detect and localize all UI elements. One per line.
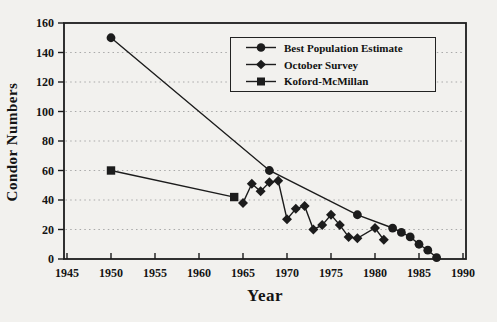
diamond-marker-icon [245,59,277,70]
legend-label: October Survey [284,59,358,71]
y-tick-label: 80 [42,134,54,148]
y-tick-label: 20 [42,223,54,237]
series-line-square [111,171,234,198]
legend-label: Koford-McMillan [284,75,368,87]
y-tick-label: 100 [36,105,54,119]
data-point-circle [107,33,116,42]
data-point-square [230,193,238,201]
x-tick-label: 1975 [319,266,343,280]
legend-item-best-population-estimate: Best Population Estimate [245,41,435,55]
y-tick-label: 120 [36,75,54,89]
data-point-circle [423,246,432,255]
data-point-diamond [308,225,318,235]
y-tick-label: 40 [42,193,54,207]
legend-label: Best Population Estimate [284,42,403,54]
x-tick-label: 1955 [143,266,167,280]
data-point-circle [432,253,441,262]
data-point-circle [397,228,406,237]
y-tick-label: 60 [42,164,54,178]
data-point-diamond [379,235,389,245]
data-point-circle [415,240,424,249]
x-tick-label: 1960 [187,266,211,280]
data-point-circle [353,210,362,219]
condor-population-chart: 0204060801001201401601945195019551960196… [0,0,497,322]
data-point-diamond [238,198,248,208]
data-point-circle [388,224,397,233]
x-tick-label: 1945 [55,266,79,280]
data-point-square [107,166,115,174]
data-point-circle [265,166,274,175]
x-axis-title: Year [165,286,365,306]
y-axis-title: Condor Numbers [4,52,24,232]
y-tick-label: 140 [36,46,54,60]
data-point-diamond [300,201,310,211]
legend: Best Population Estimate October Survey … [230,37,436,92]
legend-item-october-survey: October Survey [245,58,435,72]
x-tick-label: 1970 [275,266,299,280]
y-tick-label: 160 [36,16,54,30]
y-tick-label: 0 [48,252,54,266]
x-tick-label: 1990 [451,266,475,280]
x-tick-label: 1980 [363,266,387,280]
legend-item-koford-mcmillan: Koford-McMillan [245,74,435,88]
x-tick-label: 1965 [231,266,255,280]
data-point-diamond [352,233,362,243]
square-marker-icon [245,76,277,87]
data-point-circle [406,232,415,241]
circle-marker-icon [245,42,277,53]
x-tick-label: 1950 [99,266,123,280]
x-tick-label: 1985 [407,266,431,280]
